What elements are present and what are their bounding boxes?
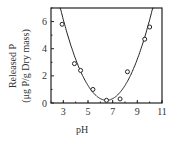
data-point bbox=[118, 97, 122, 101]
x-tick-label: 11 bbox=[157, 106, 167, 117]
chart: 3579110246 pH Released P (μg P/g Dry mas… bbox=[0, 0, 174, 141]
fit-curve bbox=[60, 8, 154, 100]
data-point bbox=[91, 87, 95, 91]
x-tick-label: 9 bbox=[135, 106, 140, 117]
data-point bbox=[105, 98, 109, 102]
x-tick-label: 5 bbox=[86, 106, 91, 117]
y-tick-label: 0 bbox=[42, 98, 47, 109]
x-tick-label: 3 bbox=[61, 106, 66, 117]
y-axis-label: Released P bbox=[7, 43, 18, 88]
data-point bbox=[125, 70, 129, 74]
y-axis-units: (μg P/g Dry mass) bbox=[20, 29, 32, 102]
x-axis-label: pH bbox=[76, 124, 88, 135]
plot-frame bbox=[51, 8, 162, 103]
data-point bbox=[143, 37, 147, 41]
y-tick-label: 4 bbox=[42, 43, 47, 54]
y-tick-label: 2 bbox=[42, 70, 47, 81]
data-point bbox=[148, 25, 152, 29]
data-point bbox=[79, 68, 83, 72]
y-tick-label: 6 bbox=[42, 16, 47, 27]
data-point bbox=[60, 22, 64, 26]
data-point bbox=[72, 62, 76, 66]
data-points bbox=[60, 22, 152, 102]
x-tick-label: 7 bbox=[110, 106, 115, 117]
